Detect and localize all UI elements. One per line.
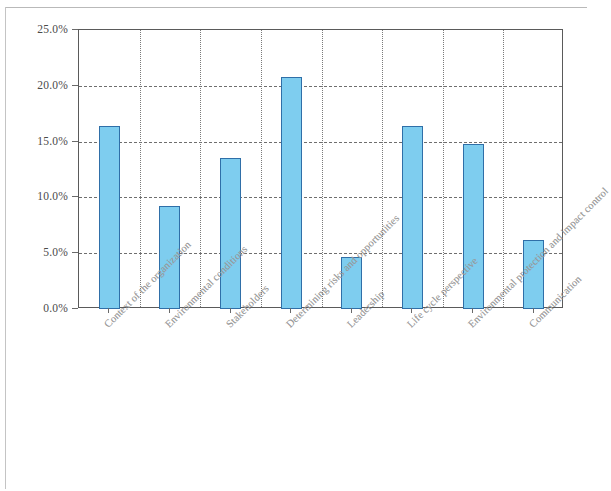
y-axis-tick-label: 5.0% — [43, 246, 68, 258]
plot-area — [78, 29, 563, 308]
x-axis-tick-mark — [230, 308, 231, 313]
y-axis-tick-label: 15.0% — [37, 135, 68, 147]
gridline-vertical — [382, 30, 383, 307]
gridline-vertical — [200, 30, 201, 307]
bar — [463, 144, 484, 309]
gridline-vertical — [443, 30, 444, 307]
x-axis-tick-mark — [351, 308, 352, 313]
bar — [220, 158, 241, 309]
bar — [402, 126, 423, 309]
bar — [99, 126, 120, 309]
x-axis: Context of the organizationEnvironmental… — [0, 308, 589, 491]
gridline-vertical — [140, 30, 141, 307]
y-axis-tick-label: 10.0% — [37, 190, 68, 202]
y-axis: 0.0%5.0%10.0%15.0%20.0%25.0% — [0, 0, 78, 320]
bar — [281, 77, 302, 309]
y-axis-tick-label: 20.0% — [37, 79, 68, 91]
x-axis-tick-mark — [472, 308, 473, 313]
gridline-horizontal — [79, 197, 562, 198]
gridline-vertical — [322, 30, 323, 307]
x-axis-tick-mark — [411, 308, 412, 313]
gridline-vertical — [503, 30, 504, 307]
x-axis-tick-mark — [533, 308, 534, 313]
x-axis-tick-mark — [108, 308, 109, 313]
gridline-horizontal — [79, 253, 562, 254]
gridline-horizontal — [79, 142, 562, 143]
gridline-horizontal — [79, 86, 562, 87]
y-axis-tick-label: 25.0% — [37, 23, 68, 35]
gridline-vertical — [261, 30, 262, 307]
x-axis-tick-mark — [169, 308, 170, 313]
x-axis-tick-mark — [290, 308, 291, 313]
